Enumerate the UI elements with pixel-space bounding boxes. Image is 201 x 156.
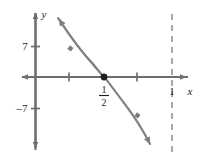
curve-direction-marker-upper [67, 45, 73, 51]
y-axis [31, 13, 40, 150]
x-axis-label: x [187, 85, 193, 97]
graph-figure: x y 7 –7 1 1 2 [0, 0, 201, 156]
y-tick-label-negative-seven: –7 [16, 102, 29, 114]
x-intercept-point [101, 74, 108, 81]
x-intercept-fraction-label: 1 2 [99, 84, 109, 108]
fraction-denominator: 2 [102, 97, 107, 108]
y-axis-label: y [41, 8, 47, 20]
fraction-numerator: 1 [102, 84, 107, 95]
x-tick-label-one: 1 [169, 85, 175, 97]
y-tick-label-seven: 7 [22, 40, 28, 52]
curve-path-upper [59, 19, 104, 77]
coordinate-plane-svg: x y 7 –7 1 1 2 [0, 0, 201, 156]
